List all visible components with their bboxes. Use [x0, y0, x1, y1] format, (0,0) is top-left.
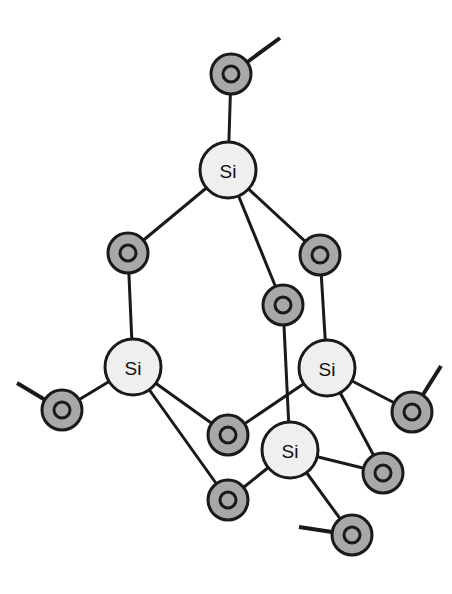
silicon-node-circle	[299, 340, 355, 396]
molecule-canvas: SiSiSiSi	[0, 0, 452, 594]
oxygen-inner-ring	[375, 465, 391, 481]
silicon-node-circle	[262, 422, 318, 478]
atom-si1-si[interactable]: Si	[200, 142, 256, 198]
atom-si3-si[interactable]: Si	[299, 340, 355, 396]
silicon-node-circle	[200, 142, 256, 198]
oxygen-inner-ring	[120, 245, 136, 261]
atom-o10-o[interactable]	[332, 515, 372, 555]
atom-o2-o[interactable]	[108, 233, 148, 273]
atom-o7-o[interactable]	[208, 415, 248, 455]
atom-o8-o[interactable]	[363, 453, 403, 493]
oxygen-inner-ring	[275, 297, 291, 313]
oxygen-inner-ring	[312, 247, 328, 263]
atom-si2-si[interactable]: Si	[105, 339, 161, 395]
atom-o6-o[interactable]	[392, 392, 432, 432]
oxygen-inner-ring	[220, 427, 236, 443]
atom-o1-o[interactable]	[211, 54, 251, 94]
atom-si4-si[interactable]: Si	[262, 422, 318, 478]
oxygen-inner-ring	[344, 527, 360, 543]
atom-o3-o[interactable]	[300, 235, 340, 275]
atom-o9-o[interactable]	[208, 480, 248, 520]
atom-o5-o[interactable]	[42, 390, 82, 430]
oxygen-inner-ring	[404, 404, 420, 420]
atom-layer: SiSiSiSi	[42, 54, 432, 555]
oxygen-inner-ring	[223, 66, 239, 82]
silicon-node-circle	[105, 339, 161, 395]
oxygen-inner-ring	[220, 492, 236, 508]
oxygen-inner-ring	[54, 402, 70, 418]
molecule-diagram: SiSiSiSi	[0, 0, 452, 594]
atom-o4-o[interactable]	[263, 285, 303, 325]
